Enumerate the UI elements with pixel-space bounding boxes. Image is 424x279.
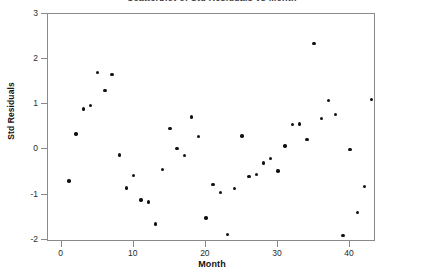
y-tick-label: 2 (20, 53, 38, 63)
y-tick-label: 3 (20, 8, 38, 18)
data-point (262, 161, 265, 164)
data-point (168, 127, 171, 130)
data-point (96, 71, 99, 74)
data-point (269, 157, 272, 160)
data-point (276, 169, 279, 172)
data-point (118, 153, 121, 156)
x-tick-label: 20 (195, 248, 215, 258)
data-point (154, 222, 157, 225)
data-point (348, 148, 351, 151)
x-axis-label: Month (0, 259, 424, 269)
x-tick-mark (133, 241, 134, 247)
data-point (190, 115, 193, 118)
data-point (341, 234, 344, 237)
y-axis-label: Std Residuals (6, 64, 16, 158)
x-tick-mark (349, 241, 350, 247)
data-point (204, 216, 207, 219)
data-point (283, 144, 286, 147)
data-point (240, 134, 243, 137)
data-point (291, 123, 294, 126)
data-point (247, 175, 250, 178)
data-point (89, 104, 92, 107)
data-point (125, 186, 128, 189)
data-point (161, 168, 164, 171)
y-tick-label: -1 (20, 189, 38, 199)
data-point (132, 174, 135, 177)
data-point (356, 211, 359, 214)
data-point (298, 122, 301, 125)
data-point (139, 198, 142, 201)
plot-frame (47, 13, 375, 241)
data-point (175, 147, 178, 150)
chart-title: Scatterplot of Std Residuals vs Month (0, 0, 424, 1)
x-tick-label: 10 (123, 248, 143, 258)
data-point (197, 135, 200, 138)
plot-area (48, 14, 374, 240)
x-tick-mark (205, 241, 206, 247)
data-point (110, 73, 113, 76)
x-tick-mark (277, 241, 278, 247)
y-tick-label: 0 (20, 143, 38, 153)
x-tick-label: 30 (267, 248, 287, 258)
x-tick-label: 40 (339, 248, 359, 258)
data-point (82, 107, 85, 110)
data-point (320, 117, 323, 120)
y-tick-label: -2 (20, 234, 38, 244)
x-tick-mark (61, 241, 62, 247)
data-point (67, 179, 70, 182)
y-tick-label: 1 (20, 98, 38, 108)
data-point (233, 187, 236, 190)
data-point (370, 98, 373, 101)
data-point (183, 154, 186, 157)
data-point (147, 200, 150, 203)
scatter-chart: Scatterplot of Std Residuals vs Month St… (0, 0, 424, 279)
data-point (103, 89, 106, 92)
data-point (327, 99, 330, 102)
data-point (305, 138, 308, 141)
data-point (219, 191, 222, 194)
data-point (255, 173, 258, 176)
x-tick-label: 0 (51, 248, 71, 258)
data-point (363, 185, 366, 188)
data-point (312, 42, 315, 45)
data-point (74, 132, 77, 135)
data-point (211, 183, 214, 186)
data-point (334, 113, 337, 116)
data-point (226, 233, 229, 236)
